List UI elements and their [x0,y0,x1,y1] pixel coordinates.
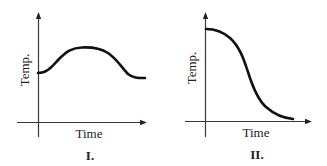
temperature-curve [206,29,293,119]
x-axis-label: Time [76,126,103,141]
temperature-curve [38,47,145,78]
y-axis-label: Temp. [184,52,199,85]
x-axis-label: Time [243,125,270,140]
figure: Temp. Time I. Temp. Time II. [0,0,327,166]
graph-caption: II. [250,147,263,162]
graph-caption: I. [86,148,94,163]
graph-1: Temp. Time I. [17,13,146,163]
graph-2: Temp. Time II. [184,13,311,162]
y-axis-label: Temp. [17,54,32,87]
